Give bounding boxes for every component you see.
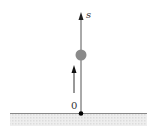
ball <box>76 50 87 61</box>
ground-fill <box>10 114 147 126</box>
diagram-canvas <box>0 0 157 135</box>
velocity-arrowhead-icon <box>72 65 77 73</box>
s-axis-arrowhead-icon <box>79 12 84 20</box>
origin-label: 0 <box>71 101 77 111</box>
s-axis-label: s <box>86 10 91 20</box>
s-axis <box>79 12 84 113</box>
ground <box>10 114 147 127</box>
origin-dot <box>79 111 84 116</box>
velocity-arrow <box>72 65 77 93</box>
